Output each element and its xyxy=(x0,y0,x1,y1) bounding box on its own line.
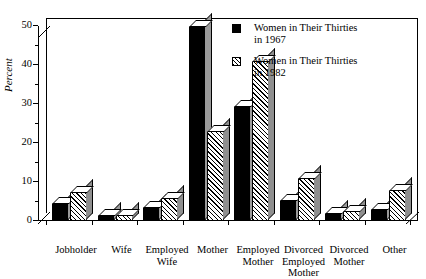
bar-1967 xyxy=(52,203,69,221)
bar-1982 xyxy=(343,211,360,221)
bar-1982 xyxy=(116,215,133,221)
y-axis-tick-label: 20 xyxy=(22,137,33,148)
legend-entry-1982: Women in Their Thirties in 1982 xyxy=(232,55,410,79)
legend-label: Women in Their Thirties in 1967 xyxy=(254,22,357,46)
legend-label: Women in Their Thirties in 1982 xyxy=(254,55,357,79)
bar-1967 xyxy=(371,209,388,221)
x-axis-tick xyxy=(92,220,93,225)
x-axis-tick xyxy=(365,220,366,225)
legend: Women in Their Thirties in 1967 Women in… xyxy=(232,20,410,90)
bar-1967 xyxy=(325,213,342,221)
y-axis-tick-label: 10 xyxy=(22,176,33,187)
bar-1982 xyxy=(161,198,178,221)
x-axis-tick xyxy=(137,220,138,225)
x-axis-tick xyxy=(46,220,47,225)
x-axis-tick xyxy=(319,220,320,225)
bar-side-face xyxy=(86,179,93,220)
y-axis-tick-label: 0 xyxy=(27,215,32,226)
x-axis-category-label: Other xyxy=(360,244,426,256)
solid-black-swatch xyxy=(232,24,241,33)
bar-side-face xyxy=(223,118,230,220)
x-axis-tick xyxy=(410,220,411,225)
bar-1982 xyxy=(389,190,406,221)
y-axis-title: Percent xyxy=(2,58,14,92)
y-axis-tick-label: 40 xyxy=(22,59,33,70)
legend-entry-1967: Women in Their Thirties in 1967 xyxy=(232,22,410,46)
y-axis-tick-label: 30 xyxy=(22,98,33,109)
bar-1982 xyxy=(298,178,315,221)
bar-1967 xyxy=(98,215,115,221)
bar-1967 xyxy=(234,106,251,221)
bar-1982 xyxy=(207,131,224,221)
x-axis-tick xyxy=(274,220,275,225)
bar-side-face xyxy=(177,185,184,220)
bar-1967 xyxy=(189,26,206,221)
x-axis-tick xyxy=(228,220,229,225)
bar-1982 xyxy=(70,192,87,221)
hatched-swatch xyxy=(232,57,241,66)
y-axis-tick-label: 50 xyxy=(22,20,33,31)
x-axis-tick xyxy=(183,220,184,225)
bar-1967 xyxy=(280,200,297,221)
bar-1967 xyxy=(143,207,160,221)
